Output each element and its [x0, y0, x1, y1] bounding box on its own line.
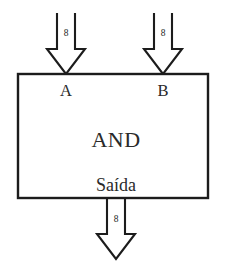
bus-width-label-saida: 8	[114, 214, 119, 224]
bus-arrow-b-shape	[144, 13, 182, 74]
port-label-b: B	[157, 81, 168, 100]
port-label-a: A	[60, 81, 72, 100]
gate-function-label: AND	[91, 127, 140, 152]
bus-arrow-a-shape	[47, 13, 85, 74]
output-port-label: Saída	[96, 175, 136, 195]
logic-diagram-svg: 8 8 8 A B AND Saída	[0, 0, 226, 271]
bus-arrow-saida-shape	[97, 198, 135, 259]
bus-width-label-a: 8	[64, 28, 69, 38]
bus-width-label-b: 8	[161, 28, 166, 38]
logic-diagram-canvas: 8 8 8 A B AND Saída	[0, 0, 226, 271]
input-bus-arrow-a: 8	[47, 13, 85, 74]
output-bus-arrow-saida: 8	[97, 198, 135, 259]
input-bus-arrow-b: 8	[144, 13, 182, 74]
